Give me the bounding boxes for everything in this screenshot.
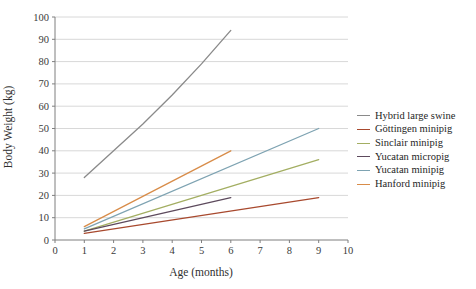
y-tick-label: 60: [39, 101, 50, 112]
y-tick-label: 10: [39, 212, 50, 223]
legend-line-swatch: [357, 115, 370, 116]
x-tick-label: 5: [199, 245, 204, 256]
x-tick-label: 0: [52, 245, 57, 256]
y-tick-label: 70: [39, 78, 50, 89]
series-line: [84, 30, 231, 177]
y-tick-label: 80: [39, 56, 50, 67]
x-tick-label: 9: [316, 245, 321, 256]
series-line: [84, 198, 318, 234]
y-tick-label: 40: [39, 145, 50, 156]
legend: Hybrid large swineGöttingen minipigSincl…: [357, 109, 455, 191]
legend-item: Hanford minipig: [357, 177, 455, 191]
legend-label: Göttingen minipig: [375, 124, 452, 135]
x-tick-label: 2: [111, 245, 116, 256]
series-line: [84, 129, 318, 229]
y-tick-label: 0: [44, 235, 49, 246]
x-tick-label: 7: [257, 245, 262, 256]
legend-line-swatch: [357, 143, 370, 144]
x-tick-label: 8: [287, 245, 292, 256]
x-tick-label: 3: [140, 245, 145, 256]
y-tick-label: 30: [39, 168, 50, 179]
legend-item: Yucatan micropig: [357, 150, 455, 164]
y-tick-label: 20: [39, 190, 50, 201]
legend-line-swatch: [357, 156, 370, 157]
legend-item: Göttingen minipig: [357, 123, 455, 137]
x-axis-label: Age (months): [0, 266, 402, 278]
legend-label: Yucatan micropig: [375, 152, 449, 163]
x-tick-label: 1: [82, 245, 87, 256]
x-tick-label: 4: [170, 245, 176, 256]
legend-item: Yucatan minipig: [357, 164, 455, 178]
legend-label: Sinclair minipig: [375, 138, 443, 149]
x-tick-label: 6: [228, 245, 233, 256]
y-tick-label: 100: [33, 12, 49, 23]
y-axis-label: Body Weight (kg): [2, 57, 14, 197]
legend-label: Hanford minipig: [375, 179, 445, 190]
legend-line-swatch: [357, 170, 370, 171]
x-tick-label: 10: [343, 245, 354, 256]
y-tick-label: 50: [39, 123, 50, 134]
legend-line-swatch: [357, 184, 370, 185]
legend-item: Hybrid large swine: [357, 109, 455, 123]
legend-label: Yucatan minipig: [375, 165, 444, 176]
legend-line-swatch: [357, 129, 370, 130]
y-tick-label: 90: [39, 34, 50, 45]
series-line: [84, 151, 231, 227]
growth-curve-figure: 0123456789100102030405060708090100 Age (…: [0, 0, 476, 289]
legend-item: Sinclair minipig: [357, 136, 455, 150]
legend-label: Hybrid large swine: [375, 111, 455, 122]
